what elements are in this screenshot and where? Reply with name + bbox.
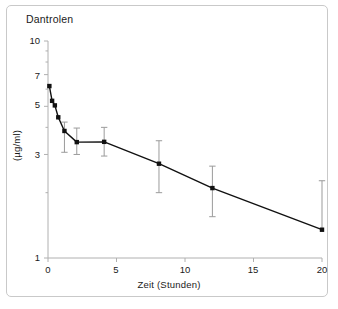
data-point-7 [157, 162, 161, 166]
data-point-5 [75, 140, 79, 144]
figure-container: Dantrolen (µg/ml) Zeit (Stunden) 10 7 5 … [0, 0, 338, 309]
error-bars-group [61, 122, 325, 230]
data-point-8 [210, 186, 214, 190]
data-point-1 [50, 99, 54, 103]
data-point-0 [47, 84, 51, 88]
plot-area [0, 0, 338, 309]
data-point-9 [320, 228, 324, 232]
data-point-6 [102, 140, 106, 144]
axes-group [44, 41, 322, 262]
data-line [49, 86, 322, 230]
data-point-3 [56, 115, 60, 119]
data-markers-group [47, 84, 324, 232]
data-point-4 [62, 129, 66, 133]
data-point-2 [53, 103, 57, 107]
